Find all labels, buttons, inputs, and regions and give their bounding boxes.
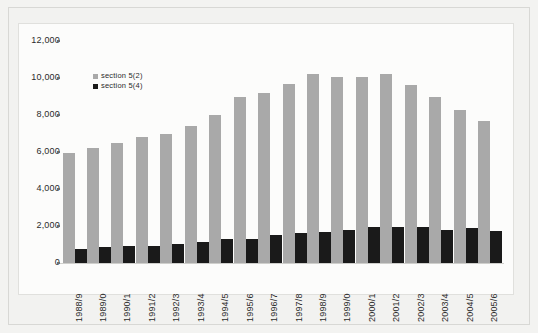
y-axis-tick-label: 12,000 [14,36,60,45]
legend-item-label: section 5(2) [101,71,143,81]
bar-section-5-4 [172,41,184,263]
bar-section-5-4 [148,41,160,263]
bar-fill-section-5-4 [490,231,502,263]
y-axis-tick: 0 [8,258,60,268]
chart-page: 12,00010,0008,0006,0004,0002,0000 1988/9… [0,0,538,333]
bar-fill-section-5-2 [185,126,197,263]
y-axis-tick-label: 0 [14,258,60,267]
bar-fill-section-5-4 [319,232,331,263]
bar-fill-section-5-4 [295,233,307,263]
x-axis-tick-label: 1990/1 [122,293,132,322]
x-axis-tick-label: 1993/4 [196,293,206,322]
bar-fill-section-5-4 [392,227,404,263]
bar-section-5-4 [270,41,282,263]
bar-section-5-2 [454,41,466,263]
bar-fill-section-5-4 [75,249,87,263]
x-axis-tick-label: 1991/2 [147,293,157,322]
bar-section-5-2 [429,41,441,263]
bar-fill-section-5-4 [221,239,233,263]
bar-fill-section-5-2 [356,77,368,263]
y-axis-tick: 4,000 [8,184,60,194]
bar-fill-section-5-4 [99,247,111,263]
y-axis-tick: 8,000 [8,110,60,120]
bar-section-5-4 [246,41,258,263]
x-axis-tick-label: 1995/6 [245,293,255,322]
bar-fill-section-5-2 [405,85,417,263]
x-axis-tick-label: 1997/8 [294,293,304,322]
bar-fill-section-5-4 [441,230,453,263]
y-axis-tick-mark [57,188,60,190]
bar-fill-section-5-2 [160,134,172,264]
x-axis-tick-label: 2005/6 [489,293,499,322]
y-axis-tick-label: 2,000 [14,221,60,230]
bar-section-5-4 [441,41,453,263]
bar-fill-section-5-4 [270,235,282,263]
bar-fill-section-5-4 [123,246,135,263]
bar-fill-section-5-2 [258,93,270,263]
x-axis-tick-label: 2004/5 [465,293,475,322]
bar-fill-section-5-4 [466,228,478,263]
bar-section-5-4 [75,41,87,263]
x-axis-tick-label: 1994/5 [220,293,230,322]
bar-section-5-2 [331,41,343,263]
bar-fill-section-5-2 [380,74,392,263]
bar-section-5-4 [392,41,404,263]
legend-item: section 5(4) [93,81,143,91]
bar-fill-section-5-4 [172,244,184,263]
y-axis-tick-label: 6,000 [14,147,60,156]
x-axis: 1988/91989/01990/11991/21992/31993/41994… [62,266,502,328]
x-axis-tick-label: 1989/0 [98,293,108,322]
y-axis: 12,00010,0008,0006,0004,0002,0000 [8,0,60,333]
chart-canvas: 12,00010,0008,0006,0004,0002,0000 1988/9… [0,0,538,333]
bar-section-5-2 [283,41,295,263]
bar-section-5-4 [343,41,355,263]
bar-fill-section-5-2 [209,115,221,263]
bar-section-5-2 [478,41,490,263]
bar-fill-section-5-4 [343,230,355,263]
bar-section-5-2 [209,41,221,263]
x-axis-baseline [60,263,504,264]
bar-section-5-4 [490,41,502,263]
bar-section-5-2 [185,41,197,263]
x-axis-tick-label: 2001/2 [391,293,401,322]
bar-section-5-4 [417,41,429,263]
y-axis-tick-label: 10,000 [14,73,60,82]
bar-fill-section-5-2 [63,153,75,263]
bar-section-5-2 [258,41,270,263]
bar-fill-section-5-2 [307,74,319,263]
legend-item-label: section 5(4) [101,81,143,91]
y-axis-tick-mark [57,40,60,42]
bar-fill-section-5-2 [331,77,343,263]
bar-section-5-2 [63,41,75,263]
legend-swatch-icon [93,74,98,79]
y-axis-tick-label: 4,000 [14,184,60,193]
x-axis-tick-label: 1996/7 [269,293,279,322]
y-axis-tick: 12,000 [8,36,60,46]
bar-section-5-2 [380,41,392,263]
bar-fill-section-5-2 [136,137,148,263]
bar-fill-section-5-4 [417,227,429,263]
bar-section-5-2 [405,41,417,263]
bar-fill-section-5-2 [234,97,246,263]
bar-section-5-4 [319,41,331,263]
x-axis-tick-label: 1988/9 [74,293,84,322]
bar-fill-section-5-4 [197,242,209,263]
bar-fill-section-5-2 [478,121,490,263]
y-axis-tick: 6,000 [8,147,60,157]
y-axis-tick: 10,000 [8,73,60,83]
bar-fill-section-5-2 [454,110,466,263]
x-axis-tick-label: 2000/1 [367,293,377,322]
bar-fill-section-5-2 [87,148,99,263]
chart-legend: section 5(2)section 5(4) [93,71,143,91]
bar-section-5-4 [368,41,380,263]
y-axis-tick-mark [57,77,60,79]
legend-item: section 5(2) [93,71,143,81]
bar-fill-section-5-2 [111,143,123,263]
x-axis-tick-label: 1998/9 [318,293,328,322]
x-axis-tick-label: 1992/3 [171,293,181,322]
y-axis-tick-mark [57,114,60,116]
y-axis-tick-label: 8,000 [14,110,60,119]
x-axis-tick-label: 1999/0 [342,293,352,322]
bar-section-5-2 [234,41,246,263]
y-axis-tick-mark [57,151,60,153]
